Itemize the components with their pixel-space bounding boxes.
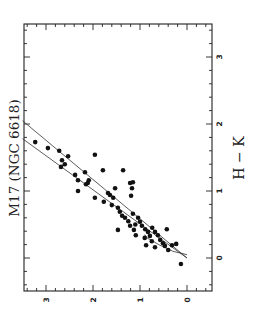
data-point <box>130 186 135 191</box>
tick-labels: 01230123 <box>42 54 225 302</box>
y-tick-label: 1 <box>136 297 145 302</box>
data-point <box>66 154 71 159</box>
data-point <box>153 245 158 250</box>
data-point <box>142 236 147 241</box>
x-axis-label: H − K <box>231 136 247 180</box>
data-point <box>73 173 78 178</box>
chart-title: M17 (NGC 6618) <box>6 99 22 216</box>
data-point <box>110 203 115 208</box>
data-point <box>133 222 138 227</box>
data-point <box>174 242 179 247</box>
data-point <box>63 162 68 167</box>
data-point <box>136 216 141 221</box>
data-point <box>116 206 121 211</box>
data-point <box>126 219 131 224</box>
data-points <box>33 140 183 267</box>
y-tick-label: 0 <box>183 297 192 302</box>
x-tick-label: 3 <box>215 54 224 59</box>
data-point <box>150 226 155 231</box>
data-point <box>134 233 139 238</box>
data-point <box>83 170 88 175</box>
data-point <box>179 262 184 267</box>
data-point <box>102 199 107 204</box>
data-point <box>84 182 89 187</box>
data-point <box>129 193 134 198</box>
data-point <box>131 212 136 217</box>
data-point <box>60 158 65 163</box>
data-point <box>101 168 106 173</box>
reddening-lines <box>23 121 188 258</box>
data-point <box>116 228 121 233</box>
chart: 01230123 M17 (NGC 6618) H − K <box>0 0 254 333</box>
data-point <box>138 220 143 225</box>
data-point <box>87 178 92 183</box>
data-point <box>148 234 153 239</box>
data-point <box>118 210 123 215</box>
data-point <box>113 186 118 191</box>
data-point <box>131 180 136 185</box>
x-tick-label: 1 <box>215 188 224 193</box>
data-point <box>156 233 161 238</box>
data-point <box>150 239 155 244</box>
plot-frame <box>24 24 212 291</box>
data-point <box>33 140 38 145</box>
reddening-band-upper-line <box>23 121 188 258</box>
y-tick-label: 3 <box>42 297 51 302</box>
data-point <box>166 248 171 253</box>
data-point <box>140 224 145 229</box>
x-tick-label: 2 <box>215 121 224 126</box>
axis-ticks <box>24 24 212 291</box>
data-point <box>121 168 126 173</box>
data-point <box>93 195 98 200</box>
data-point <box>93 153 98 158</box>
data-point <box>76 189 81 194</box>
data-point <box>146 230 151 235</box>
data-point <box>165 227 170 232</box>
data-point <box>57 149 62 154</box>
data-point <box>128 224 133 229</box>
data-point <box>76 178 81 183</box>
data-point <box>163 244 168 249</box>
data-point <box>144 243 149 248</box>
data-point <box>46 146 51 151</box>
data-point <box>111 195 116 200</box>
data-point <box>132 228 137 233</box>
data-point <box>123 216 128 221</box>
y-tick-label: 2 <box>89 297 98 302</box>
x-tick-label: 0 <box>215 255 224 260</box>
data-point <box>170 243 175 248</box>
data-point <box>59 165 64 170</box>
